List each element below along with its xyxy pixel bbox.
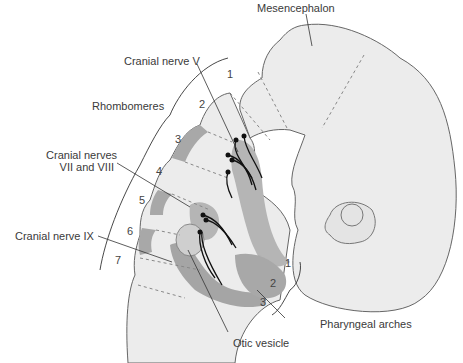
label-mesencephalon: Mesencephalon (257, 2, 335, 14)
rhombomere-number-2: 2 (199, 98, 205, 110)
label-pharyngeal-arches: Pharyngeal arches (320, 318, 412, 330)
pharyngeal-arch-number-1: 1 (285, 257, 291, 269)
pharyngeal-arch-number-2: 2 (270, 277, 276, 289)
label-cranial-nerve-v: Cranial nerve V (124, 55, 200, 67)
embryo-illustration (0, 0, 463, 363)
rhombomere-number-4: 4 (156, 165, 162, 177)
rhombomere-number-7: 7 (115, 254, 121, 266)
rhombomere-number-3: 3 (175, 133, 181, 145)
label-rhombomeres: Rhombomeres (92, 100, 164, 112)
label-otic-vesicle: Otic vesicle (233, 337, 289, 349)
rhombomere-number-5: 5 (139, 194, 145, 206)
diagram-canvas: Mesencephalon Cranial nerve V Rhombomere… (0, 0, 463, 363)
rhombomere-number-6: 6 (127, 225, 133, 237)
pharyngeal-arch-number-3: 3 (260, 296, 266, 308)
rhombomere-number-1: 1 (227, 68, 233, 80)
label-cranial-nerves-vii-viii-1: Cranial nerves (45, 149, 117, 161)
label-cranial-nerve-ix: Cranial nerve IX (15, 230, 94, 242)
label-cranial-nerves-vii-viii-2: VII and VIII (45, 161, 114, 173)
